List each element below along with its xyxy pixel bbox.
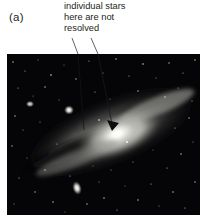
companion-knot — [26, 101, 34, 107]
leader-line-left — [72, 38, 78, 54]
companion-galaxy-m32 — [64, 105, 74, 114]
annotation-callout: individual stars here are not resolved — [64, 1, 126, 33]
galaxy-image-svg — [7, 54, 200, 215]
figure-panel-a: (a) individual stars here are not resolv… — [0, 0, 207, 222]
annotation-line-2: here are not — [64, 12, 126, 23]
galaxy-photograph — [7, 54, 200, 215]
leader-line-right — [91, 38, 98, 54]
panel-label: (a) — [9, 11, 24, 23]
annotation-line-1: individual stars — [64, 1, 126, 12]
annotation-line-3: resolved — [64, 23, 126, 34]
